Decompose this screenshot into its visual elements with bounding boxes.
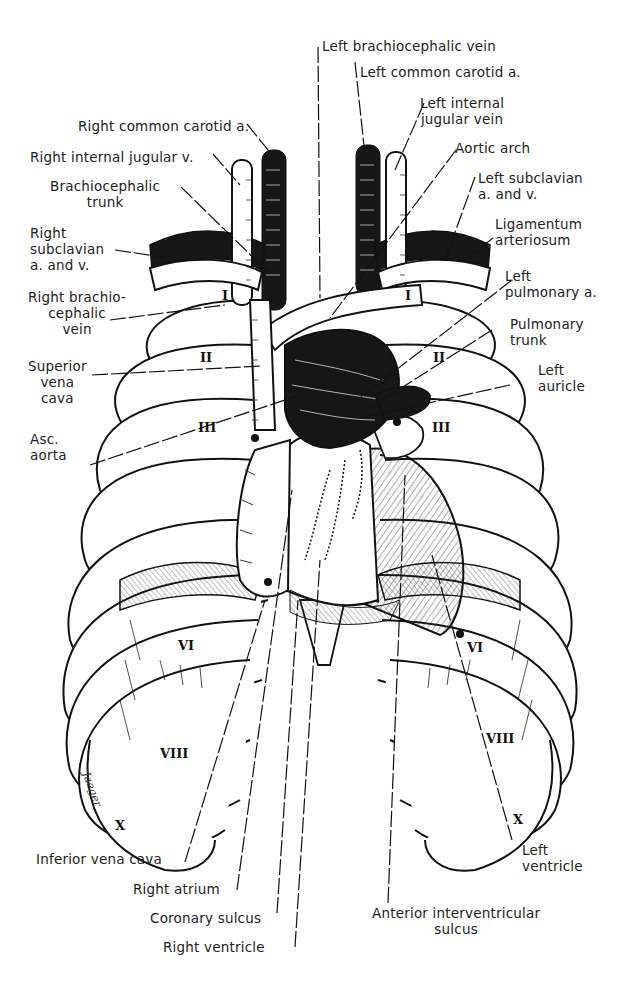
label-right-subclavian: Right subclavian a. and v.	[30, 225, 104, 273]
rib-numeral-right-1: I	[222, 288, 228, 303]
label-coronary-sulcus: Coronary sulcus	[150, 910, 261, 926]
label-left-internal-jugular-vein: Left internal jugular vein	[420, 95, 504, 127]
label-ascending-aorta: Asc. aorta	[30, 431, 67, 463]
cropped-title-fragment	[380, 0, 500, 6]
rib-numeral-left-6: VI	[466, 640, 483, 655]
label-left-subclavian: Left subclavian a. and v.	[478, 170, 583, 202]
label-right-atrium: Right atrium	[133, 881, 220, 897]
label-left-pulmonary-artery: Left pulmonary a.	[505, 268, 597, 300]
label-superior-vena-cava: Superior vena cava	[28, 358, 87, 406]
label-anterior-interventricular-sulcus: Anterior interventricular sulcus	[372, 905, 540, 937]
rib-numeral-left-8: VIII	[485, 731, 514, 746]
label-right-brachiocephalic-vein: Right brachio- cephalic vein	[28, 289, 126, 337]
label-aortic-arch: Aortic arch	[455, 140, 530, 156]
rib-numeral-left-1: I	[405, 288, 411, 303]
label-right-ventricle: Right ventricle	[163, 939, 265, 955]
rib-numeral-right-6: VI	[177, 638, 194, 653]
label-left-brachiocephalic-vein: Left brachiocephalic vein	[322, 38, 496, 54]
rib-numeral-right-8: VIII	[159, 746, 188, 761]
label-pulmonary-trunk: Pulmonary trunk	[510, 316, 584, 348]
rib-numeral-left-2: II	[433, 350, 445, 365]
rib-numeral-left-10: X	[513, 812, 524, 827]
label-right-internal-jugular: Right internal jugular v.	[30, 149, 193, 165]
label-left-ventricle: Left ventricle	[522, 842, 583, 874]
rib-numeral-right-10: X	[115, 818, 126, 833]
label-brachiocephalic-trunk: Brachiocephalic trunk	[50, 178, 160, 210]
label-inferior-vena-cava: Inferior vena cava	[36, 851, 162, 867]
rib-numeral-right-2: II	[200, 350, 212, 365]
rib-numeral-left-3: III	[432, 420, 450, 435]
label-ligamentum-arteriosum: Ligamentum arteriosum	[495, 216, 582, 248]
label-left-common-carotid: Left common carotid a.	[360, 64, 521, 80]
label-right-common-carotid: Right common carotid a.	[78, 118, 249, 134]
label-left-auricle: Left auricle	[538, 362, 585, 394]
